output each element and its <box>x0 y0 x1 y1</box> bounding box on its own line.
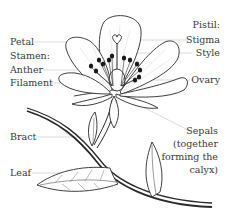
label-sepals-1: Sepals <box>186 124 218 137</box>
label-sepals-4: calyx) <box>190 163 218 176</box>
label-sepals-3: forming the <box>161 150 218 163</box>
label-petal: Petal <box>10 35 34 48</box>
flower-diagram: Petal Stamen: Anther Filament Bract Leaf… <box>0 0 234 216</box>
label-style: Style <box>196 46 220 59</box>
label-stamen: Stamen: <box>10 49 50 62</box>
label-pistil: Pistil: <box>193 18 220 31</box>
leaf-right-shape <box>146 142 162 197</box>
label-ovary: Ovary <box>191 73 220 86</box>
label-filament: Filament <box>10 76 53 89</box>
leaf-left-shape <box>37 167 118 191</box>
label-bract: Bract <box>10 130 36 143</box>
label-leaf: Leaf <box>10 166 31 179</box>
label-stigma: Stigma <box>186 33 220 46</box>
label-anther: Anther <box>10 63 43 76</box>
label-sepals-2: (together <box>173 137 218 150</box>
